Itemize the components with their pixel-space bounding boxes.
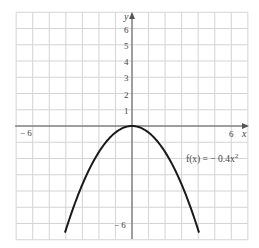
function-graph: y x 123456 − 6 6 − 6 f(x) = − 0.4x2 <box>0 0 259 248</box>
y-tick-4: 4 <box>124 57 129 67</box>
x-axis-label: x <box>241 128 247 139</box>
y-tick-2: 2 <box>124 90 129 100</box>
function-label-text: f(x) = − 0.4x <box>186 154 235 165</box>
x-tick-pos6: 6 <box>229 129 234 139</box>
y-tick-neg6: − 6 <box>114 220 126 230</box>
y-tick-6: 6 <box>124 25 129 35</box>
y-axis-label: y <box>123 11 129 22</box>
y-tick-3: 3 <box>124 73 129 83</box>
y-tick-labels: 123456 <box>124 25 129 116</box>
function-label-exponent: 2 <box>235 152 239 160</box>
y-tick-1: 1 <box>124 106 129 116</box>
function-label: f(x) = − 0.4x2 <box>186 152 239 165</box>
x-tick-neg6: − 6 <box>20 128 32 138</box>
y-tick-5: 5 <box>124 41 129 51</box>
y-axis-arrow-icon <box>129 12 135 19</box>
